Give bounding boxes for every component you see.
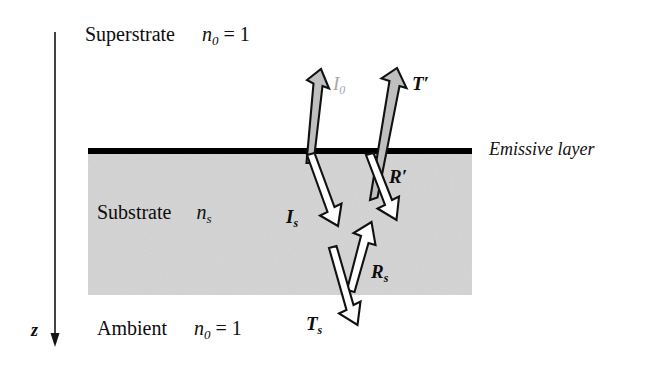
ray-label-R-prime: R′: [389, 167, 407, 186]
region-name-substrate: Substrate: [97, 201, 171, 223]
refractive-index-subscript-superstrate: 0: [212, 33, 219, 48]
ray-prime-T: ′: [424, 73, 429, 94]
ray-label-I0: I0: [333, 74, 345, 93]
region-name-superstrate: Superstrate: [85, 23, 175, 45]
refractive-index-symbol-ambient: n: [194, 317, 204, 339]
z-axis-label: z: [31, 321, 38, 339]
ray-subscript-T-s: s: [318, 323, 323, 337]
ray-subscript-I0: 0: [339, 83, 345, 97]
ray-label-T-s: Ts: [306, 314, 322, 333]
refractive-index-value-superstrate: = 1: [223, 23, 249, 45]
ray-symbol-R-s: R: [371, 261, 384, 282]
z-axis-arrowhead-icon: [51, 333, 60, 347]
ray-symbol-T-s: T: [306, 313, 318, 334]
region-label-superstrate: Superstrate n0 = 1: [85, 24, 250, 44]
refractive-index-subscript-ambient: 0: [204, 327, 211, 342]
refractive-index-symbol-superstrate: n: [202, 23, 212, 45]
diagram-canvas: [0, 0, 659, 367]
refractive-index-value-ambient: = 1: [216, 317, 242, 339]
region-name-ambient: Ambient: [97, 317, 167, 339]
refractive-index-subscript-substrate: s: [206, 211, 211, 226]
region-label-substrate: Substrate ns: [97, 202, 212, 222]
emissive-layer-line: [88, 148, 472, 154]
emissive-layer-label: Emissive layer: [489, 140, 594, 158]
ray-symbol-R-prime: R: [389, 166, 402, 187]
ray-prime-R: ′: [402, 166, 407, 187]
ray-subscript-R-s: s: [384, 271, 389, 285]
ray-label-I-s: Is: [286, 207, 298, 226]
ray-label-R-s: Rs: [371, 262, 388, 281]
ray-diagram-figure: Superstrate n0 = 1 Substrate ns Ambient …: [0, 0, 659, 367]
region-label-ambient: Ambient n0 = 1: [97, 318, 242, 338]
ray-symbol-T-prime: T: [412, 73, 424, 94]
ray-label-T-prime: T′: [412, 74, 429, 93]
ray-subscript-I-s: s: [293, 216, 298, 230]
substrate-texture-overlay: [88, 154, 472, 295]
refractive-index-symbol-substrate: n: [196, 201, 206, 223]
